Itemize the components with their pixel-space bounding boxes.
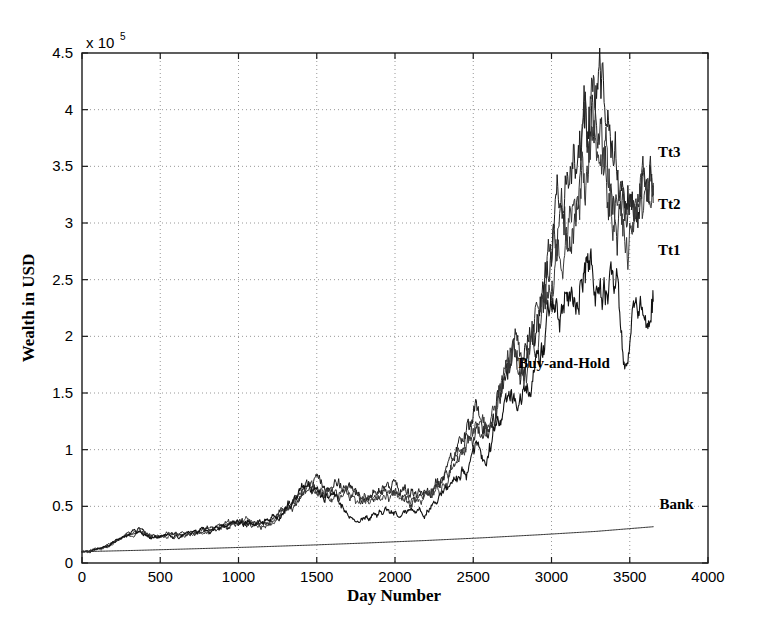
y-tick-label: 0 bbox=[65, 554, 73, 571]
x-tick-label: 3500 bbox=[613, 568, 646, 585]
y-tick-label: 3 bbox=[65, 214, 73, 231]
y-axis-exponent-prefix: x 10 bbox=[86, 34, 114, 51]
series-label-bank: Bank bbox=[659, 496, 694, 512]
y-tick-label: 3.5 bbox=[52, 157, 73, 174]
y-tick-label: 2.5 bbox=[52, 271, 73, 288]
y-tick-label: 1 bbox=[65, 441, 73, 458]
series-label-tt2: Tt2 bbox=[658, 196, 681, 212]
x-tick-label: 500 bbox=[148, 568, 173, 585]
series-label-tt1: Tt1 bbox=[658, 242, 681, 258]
y-tick-label: 1.5 bbox=[52, 384, 73, 401]
y-axis-exponent-value: 5 bbox=[120, 31, 126, 42]
x-tick-label: 3000 bbox=[535, 568, 568, 585]
x-tick-label: 4000 bbox=[691, 568, 724, 585]
y-axis-title: Wealth in USD bbox=[19, 254, 38, 363]
chart-figure: 0500100015002000250030003500400000.511.5… bbox=[0, 0, 759, 625]
series-label-tt3: Tt3 bbox=[658, 144, 681, 160]
x-axis-title: Day Number bbox=[347, 586, 441, 605]
x-tick-label: 2500 bbox=[457, 568, 490, 585]
x-tick-label: 1000 bbox=[222, 568, 255, 585]
y-tick-label: 2 bbox=[65, 327, 73, 344]
chart-canvas: 0500100015002000250030003500400000.511.5… bbox=[0, 0, 759, 625]
y-tick-label: 4 bbox=[65, 101, 73, 118]
y-tick-label: 0.5 bbox=[52, 497, 73, 514]
x-tick-label: 0 bbox=[78, 568, 86, 585]
figure-background bbox=[0, 0, 759, 625]
x-tick-label: 2000 bbox=[378, 568, 411, 585]
series-label-buy-and-hold: Buy-and-Hold bbox=[518, 355, 610, 371]
y-tick-label: 4.5 bbox=[52, 44, 73, 61]
x-tick-label: 1500 bbox=[300, 568, 333, 585]
